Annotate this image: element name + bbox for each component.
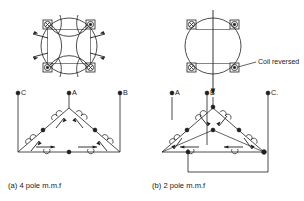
- terminal-dot-c-b: [266, 91, 270, 95]
- terminal-dot-b-b: [205, 91, 209, 95]
- terminal-label-c-a: C: [21, 88, 26, 97]
- figure-canvas: C A B A B C. Coil reversed (a) 4 pole m.…: [0, 0, 304, 201]
- panel-b-caption: (b) 2 pole m.m.f: [152, 181, 206, 190]
- terminal-dot-a-a: [67, 91, 71, 95]
- terminal-dot-c-a: [16, 91, 20, 95]
- terminal-dot-b-a: [118, 91, 122, 95]
- coil-reversed-annotation: Coil reversed: [258, 58, 299, 65]
- terminal-label-b-a: B: [123, 88, 128, 97]
- terminal-label-b-b: B: [210, 88, 215, 97]
- electrical-machine-diagram: C A B A B C. Coil reversed (a) 4 pole m.…: [0, 0, 304, 201]
- terminal-dot-a-b: [170, 91, 174, 95]
- terminal-label-a-a: A: [72, 88, 77, 97]
- panel-a-caption: (a) 4 pole m.m.f: [8, 181, 62, 190]
- terminal-label-c-b: C.: [271, 88, 278, 97]
- terminal-label-a-b: A: [175, 88, 180, 97]
